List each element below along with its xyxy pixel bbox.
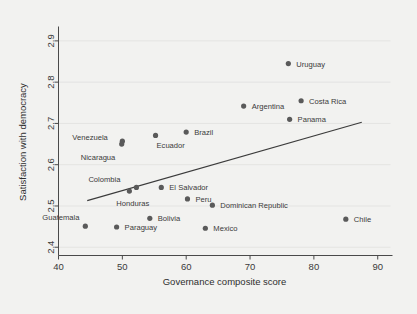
data-point-label: Chile <box>354 215 371 224</box>
data-point-label: Uruguay <box>296 60 325 69</box>
ytick-label-2.6: 2.6 <box>45 158 56 171</box>
ytick-label-2.9: 2.9 <box>45 34 56 47</box>
data-point-label: Nicaragua <box>81 153 116 162</box>
xtick-label-50: 50 <box>117 261 128 272</box>
x-axis-title: Governance composite score <box>163 276 287 287</box>
ytick-label-2.4: 2.4 <box>45 241 56 254</box>
data-point-marker[interactable] <box>153 133 158 138</box>
data-point-marker[interactable] <box>83 224 88 229</box>
chart-canvas: 2.42.52.62.72.82.9405060708090Governance… <box>0 0 417 314</box>
data-point-marker[interactable] <box>286 61 291 66</box>
data-point-marker[interactable] <box>134 185 139 190</box>
xtick-label-40: 40 <box>53 261 64 272</box>
data-point-label: Venezuela <box>72 133 108 142</box>
ytick-label-2.5: 2.5 <box>45 199 56 212</box>
data-point-marker[interactable] <box>287 117 292 122</box>
data-point-label: El Salvador <box>169 183 208 192</box>
data-point-label: Honduras <box>116 199 149 208</box>
data-point-label: Colombia <box>88 175 121 184</box>
data-point-label: Costa Rica <box>309 97 347 106</box>
data-point-marker[interactable] <box>159 185 164 190</box>
data-point-label: Guatemala <box>42 213 80 222</box>
xtick-label-70: 70 <box>245 261 256 272</box>
data-point-marker[interactable] <box>147 216 152 221</box>
xtick-label-80: 80 <box>309 261 320 272</box>
data-point-marker[interactable] <box>343 217 348 222</box>
data-point-label: Bolivia <box>158 214 181 223</box>
data-point-marker[interactable] <box>203 226 208 231</box>
data-point-label: Panama <box>298 115 327 124</box>
data-point-label: Dominican Republic <box>220 201 288 210</box>
data-point-label: Ecuador <box>157 141 186 150</box>
data-point-label: Paraguay <box>125 223 158 232</box>
xtick-label-60: 60 <box>181 261 192 272</box>
data-point-marker[interactable] <box>119 141 124 146</box>
xtick-label-90: 90 <box>372 261 383 272</box>
data-point-label: Mexico <box>213 224 237 233</box>
data-point-marker[interactable] <box>127 189 132 194</box>
axis-frame <box>59 27 393 256</box>
data-point-label: Argentina <box>252 102 285 111</box>
data-point-marker[interactable] <box>299 98 304 103</box>
ytick-label-2.8: 2.8 <box>45 76 56 89</box>
scatter-chart: 2.42.52.62.72.82.9405060708090Governance… <box>0 0 417 314</box>
data-point-marker[interactable] <box>184 129 189 134</box>
data-point-marker[interactable] <box>210 203 215 208</box>
data-point-label: Brazil <box>194 128 213 137</box>
data-point-label: Peru <box>195 195 211 204</box>
data-point-marker[interactable] <box>185 196 190 201</box>
y-axis-title: Satisfaction with democracy <box>17 83 28 201</box>
data-point-marker[interactable] <box>241 103 246 108</box>
ytick-label-2.7: 2.7 <box>45 117 56 130</box>
data-point-marker[interactable] <box>114 224 119 229</box>
